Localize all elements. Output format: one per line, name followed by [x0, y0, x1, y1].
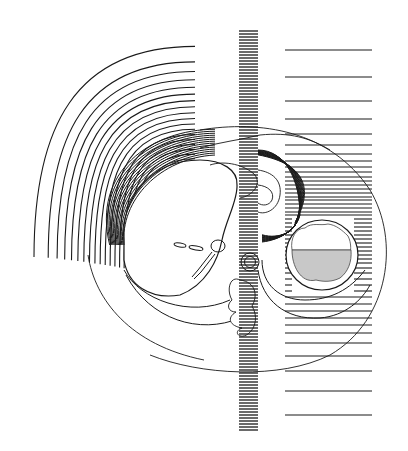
upper-lobe-line: [200, 134, 330, 150]
diagram-canvas: [0, 0, 408, 451]
spleen-outline: [258, 170, 280, 213]
vertical-line-band: [239, 31, 258, 430]
cross-section-diagram: [0, 0, 408, 451]
spleen-inner: [258, 185, 273, 205]
liver-outline: [124, 160, 237, 296]
stomach: [286, 220, 358, 290]
